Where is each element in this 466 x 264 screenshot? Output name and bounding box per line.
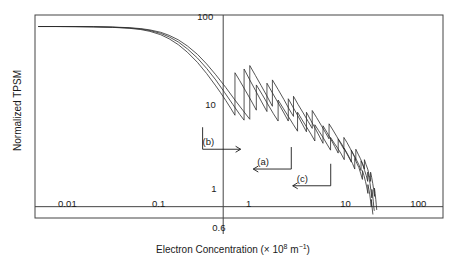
- data-series-group: [38, 27, 376, 215]
- annotation-label-b: (b): [203, 136, 215, 147]
- y-tick-label-1: 1: [211, 183, 216, 194]
- series-line-c: [38, 27, 376, 210]
- x-marker-0p6: 0.6: [212, 222, 226, 233]
- x-tick-label-0.1: 0.1: [152, 198, 166, 209]
- x-tick-label-100: 100: [410, 198, 426, 209]
- chart-plot-area: [0, 0, 466, 264]
- x-axis-title-text: Electron Concentration (× 108 m−1): [156, 244, 310, 255]
- axis-frame: [35, 15, 443, 218]
- y-axis-title: Normalized TPSM: [12, 61, 23, 161]
- x-tick-label-10: 10: [340, 198, 351, 209]
- annotation-label-a: (a): [257, 156, 269, 167]
- y-tick-label-100: 100: [197, 11, 213, 22]
- x-axis-title: Electron Concentration (× 108 m−1): [0, 243, 466, 255]
- y-tick-label-10: 10: [205, 99, 216, 110]
- chart-figure: Normalized TPSM Electron Concentration (…: [0, 0, 466, 264]
- x-tick-label-0.01: 0.01: [58, 198, 77, 209]
- annotation-label-c: (c): [297, 173, 308, 184]
- x-tick-label-1: 1: [246, 198, 251, 209]
- series-line-a: [38, 27, 374, 211]
- series-line-b: [38, 27, 373, 215]
- reference-lines: [35, 15, 443, 234]
